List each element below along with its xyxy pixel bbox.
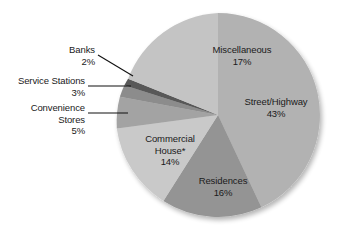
- callout-label-convenience-stores-line1: Convenience: [0, 102, 85, 114]
- callout-label-banks-pct: 2%: [0, 56, 95, 68]
- slice-label-miscellaneous-name: Miscellaneous: [196, 44, 288, 56]
- slice-label-residences-name: Residences: [181, 175, 265, 187]
- callout-label-convenience-stores: Convenience Stores 5%: [0, 102, 85, 137]
- slice-label-commercial-house: Commercial House* 14%: [127, 133, 213, 168]
- callout-label-convenience-stores-line2: Stores: [0, 114, 85, 126]
- slice-label-commercial-house-line2: House*: [127, 145, 213, 157]
- slice-label-street-highway-name: Street/Highway: [228, 96, 324, 108]
- callout-label-service-stations-pct: 3%: [0, 87, 85, 99]
- slice-label-miscellaneous-pct: 17%: [196, 56, 288, 68]
- slice-label-street-highway: Street/Highway 43%: [228, 96, 324, 119]
- slice-label-commercial-house-line1: Commercial: [127, 133, 213, 145]
- callout-label-banks-name: Banks: [0, 44, 95, 56]
- leader-line-banks: [98, 55, 133, 76]
- slice-label-residences-pct: 16%: [181, 187, 265, 199]
- slice-label-commercial-house-pct: 14%: [127, 156, 213, 168]
- pie-chart-figure: Miscellaneous 17% Street/Highway 43% Res…: [0, 0, 340, 226]
- slice-label-miscellaneous: Miscellaneous 17%: [196, 44, 288, 67]
- callout-label-service-stations-name: Service Stations: [0, 75, 85, 87]
- callout-label-service-stations: Service Stations 3%: [0, 75, 85, 98]
- callout-label-banks: Banks 2%: [0, 44, 95, 67]
- slice-label-street-highway-pct: 43%: [228, 108, 324, 120]
- callout-label-convenience-stores-pct: 5%: [0, 125, 85, 137]
- slice-label-residences: Residences 16%: [181, 175, 265, 198]
